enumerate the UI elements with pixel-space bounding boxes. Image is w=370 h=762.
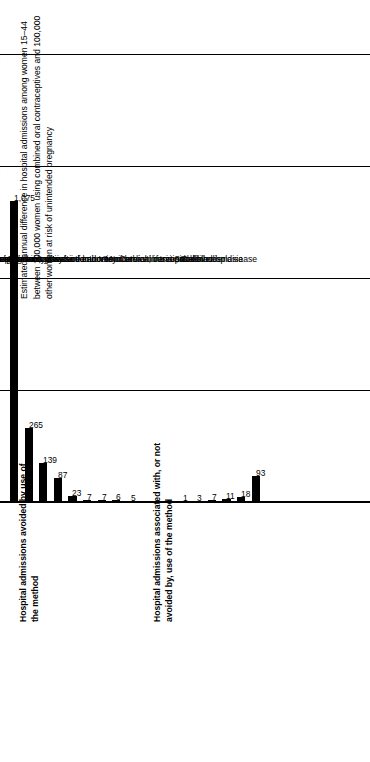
- bar: [39, 463, 47, 502]
- bar-value-label: 18: [241, 489, 250, 499]
- axis-tick: [0, 390, 5, 391]
- bar-value-label: 1,075: [14, 193, 35, 203]
- gridline: [0, 166, 370, 167]
- bar-value-label: 7: [102, 492, 107, 502]
- bar-value-label: 265: [29, 420, 43, 430]
- bar-value-label: 1: [183, 493, 188, 503]
- bar-value-label: 87: [58, 470, 67, 480]
- category-label: Gallbladder disease: [7, 254, 257, 264]
- bar-value-label: 7: [212, 492, 217, 502]
- bar: [54, 478, 62, 502]
- gridline: [0, 54, 370, 55]
- axis-tick: [0, 166, 5, 167]
- gridline: [0, 390, 370, 391]
- bar-value-label: 23: [72, 488, 81, 498]
- chart-figure: Estimated annual difference in hospital …: [0, 0, 370, 762]
- axis-tick: [0, 502, 5, 503]
- bar-value-label: 7: [87, 492, 92, 502]
- axis-tick: [0, 278, 5, 279]
- gridline: [0, 278, 370, 279]
- bar-value-label: 11: [226, 491, 235, 501]
- bar-value-label: 6: [116, 492, 121, 502]
- bar-value-label: 93: [256, 468, 265, 478]
- bar-value-label: 139: [43, 455, 57, 465]
- bar: [10, 201, 18, 502]
- axis-tick: [0, 54, 5, 55]
- bar-value-label: 5: [131, 493, 136, 503]
- plot-area: 04008001,2001,6001,075Cesarean delivery2…: [0, 55, 370, 503]
- bar: [25, 428, 33, 502]
- bar-value-label: 3: [197, 493, 202, 503]
- bar: [252, 476, 260, 502]
